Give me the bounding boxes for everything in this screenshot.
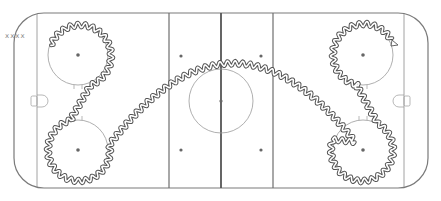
goal-left [31, 95, 48, 107]
goal-right [393, 95, 410, 107]
start-marker-xxxx: xxxx [5, 32, 26, 40]
end-arrow-icon [391, 40, 398, 46]
hockey-rink-diagram [0, 0, 441, 201]
center-dot [219, 99, 222, 102]
